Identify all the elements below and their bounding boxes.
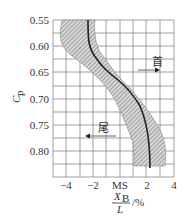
stern-annotation: 尾: [85, 122, 116, 139]
chart: 首 尾 0.55 0.60 0.65 0.70 0.75 0.80 C p −4…: [0, 0, 190, 218]
svg-text:/%: /%: [132, 196, 144, 208]
y-tick: 0.70: [30, 93, 50, 105]
x-tick: 2: [144, 179, 150, 191]
x-tick: −2: [87, 179, 99, 191]
y-tick: 0.55: [30, 14, 50, 26]
y-tick: 0.65: [30, 66, 50, 78]
stern-label: 尾: [98, 122, 109, 134]
y-tick: 0.80: [30, 145, 50, 157]
x-tick: −4: [60, 179, 72, 191]
y-axis: 0.55 0.60 0.65 0.70 0.75 0.80: [30, 14, 50, 157]
bow-annotation: 首: [138, 55, 163, 73]
x-label: X B L /%: [112, 190, 144, 215]
y-tick: 0.75: [30, 119, 50, 131]
bow-label: 首: [152, 55, 163, 68]
y-tick: 0.60: [30, 40, 50, 52]
svg-text:X: X: [113, 190, 122, 202]
x-tick: 4: [171, 179, 177, 191]
svg-text:p: p: [13, 90, 25, 96]
scatter-band: [60, 20, 166, 166]
y-label: C p: [10, 90, 25, 103]
svg-text:L: L: [116, 203, 123, 215]
